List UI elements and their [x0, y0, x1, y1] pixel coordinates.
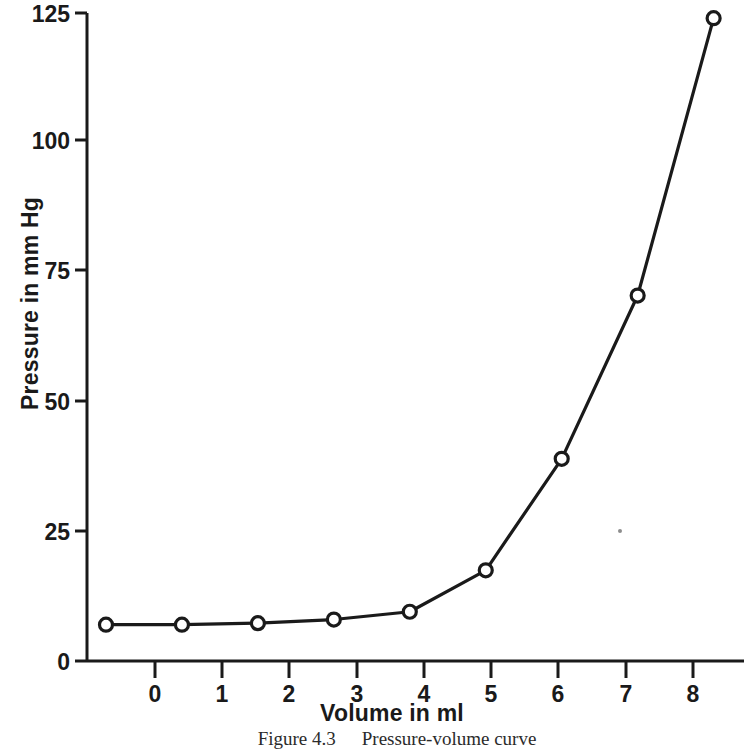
y-tick-label-0: 0: [57, 649, 70, 675]
data-point-2: [251, 617, 264, 630]
x-axis-label: Volume in ml: [87, 700, 697, 727]
y-axis-ticks: [75, 13, 87, 661]
y-tick-label-100: 100: [32, 128, 70, 154]
figure-caption-text: Pressure-volume curve: [362, 728, 537, 749]
data-point-7: [631, 289, 644, 302]
y-tick-label-50: 50: [44, 389, 70, 415]
data-point-3: [327, 613, 340, 626]
y-tick-label-75: 75: [44, 258, 70, 284]
data-point-6: [555, 452, 568, 465]
print-speck: [618, 529, 622, 533]
data-point-0: [99, 618, 112, 631]
figure-caption-number: Figure 4.3: [258, 728, 336, 749]
y-tick-label-125: 125: [32, 1, 71, 27]
figure-caption: Figure 4.3Pressure-volume curve: [87, 728, 707, 750]
x-axis-ticks: [155, 661, 693, 678]
data-series-line: [106, 18, 714, 625]
data-point-4: [403, 605, 416, 618]
data-point-1: [175, 618, 188, 631]
y-tick-label-25: 25: [44, 519, 70, 545]
data-point-8: [707, 12, 720, 25]
data-point-5: [479, 564, 492, 577]
